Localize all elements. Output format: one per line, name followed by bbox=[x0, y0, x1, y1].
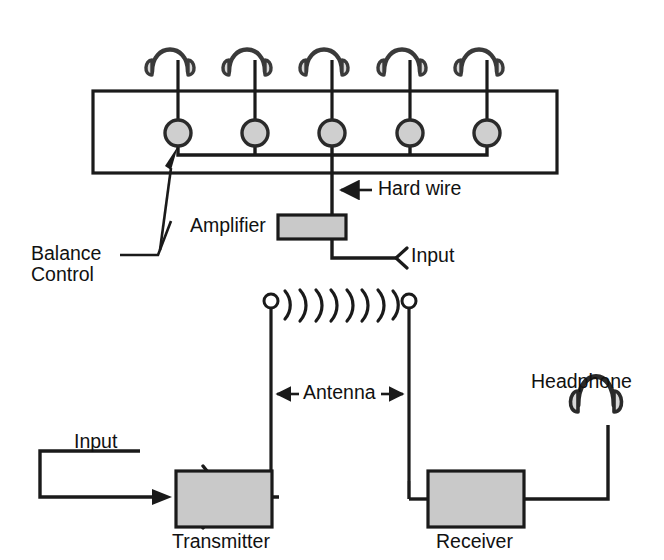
radio-waves-icon bbox=[285, 290, 398, 321]
receiver-box bbox=[428, 471, 524, 527]
balance-control-leader-arrow bbox=[165, 146, 178, 170]
diagram-svg bbox=[0, 0, 664, 560]
bottom-input-wire bbox=[40, 451, 152, 497]
balance-control-knob-5[interactable] bbox=[474, 120, 500, 146]
receive-antenna-tip bbox=[402, 294, 416, 308]
balance-control-label-line1: Balance bbox=[31, 243, 101, 265]
receiver-headphone-cable bbox=[523, 425, 608, 499]
transmitter-box bbox=[176, 471, 272, 527]
balance-control-knob-1[interactable] bbox=[165, 120, 191, 146]
amplifier-input-label: Input bbox=[411, 245, 454, 267]
input-jack-icon-top bbox=[396, 248, 407, 268]
transmitter-label: Transmitter bbox=[172, 531, 270, 553]
amplifier-output-wire bbox=[332, 239, 396, 258]
amplifier-label: Amplifier bbox=[190, 215, 266, 237]
antenna-label: Antenna bbox=[303, 382, 376, 404]
balance-control-knob-4[interactable] bbox=[397, 120, 423, 146]
transmitter-input-label: Input bbox=[74, 431, 117, 453]
hard-wire-label: Hard wire bbox=[378, 178, 461, 200]
balance-control-knob-3[interactable] bbox=[319, 120, 345, 146]
bottom-input-arrow bbox=[152, 489, 172, 505]
balance-control-label-line2: Control bbox=[31, 264, 94, 286]
receiver-label: Receiver bbox=[436, 531, 513, 553]
headphone-label: Headphone bbox=[531, 371, 632, 393]
transmit-antenna-tip bbox=[264, 294, 278, 308]
balance-control-knob-2[interactable] bbox=[242, 120, 268, 146]
amplifier-box bbox=[278, 215, 346, 239]
diagram-canvas: Hard wire Amplifier Input Balance Contro… bbox=[0, 0, 664, 560]
